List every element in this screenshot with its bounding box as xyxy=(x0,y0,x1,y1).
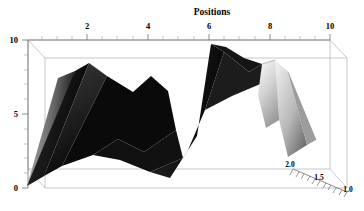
chart-title: Positions xyxy=(194,7,231,17)
x-tick-label-10: 10 xyxy=(326,21,335,31)
z-tick-label-1-5: 1.5 xyxy=(314,173,324,182)
y-tick-label-10: 10 xyxy=(10,35,19,45)
x-tick-label-8: 8 xyxy=(268,21,272,31)
z-tick-label-1: 1.0 xyxy=(343,185,353,194)
z-tick-label-2: 2.0 xyxy=(285,160,295,169)
x-tick-label-2: 2 xyxy=(85,21,89,31)
chart-figure: 2 4 6 8 10 10 xyxy=(0,0,364,211)
x-tick-label-6: 6 xyxy=(207,21,211,31)
chart-canvas: 2 4 6 8 10 10 xyxy=(0,0,364,211)
y-tick-label-0: 0 xyxy=(14,183,18,193)
y-tick-label-5: 5 xyxy=(14,109,18,119)
